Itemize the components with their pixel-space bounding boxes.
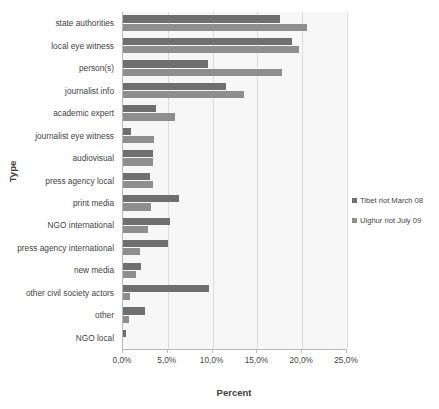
x-tick-mark [167,349,168,353]
category-label: NGO international [0,220,114,230]
bar-row [123,327,346,349]
bar-1 [123,158,153,165]
x-tick-label: 15,0% [234,355,278,365]
bar-row [123,237,346,259]
bar-row [123,192,346,214]
bar-0 [123,307,145,314]
x-tick-label: 0,0% [100,355,144,365]
bar-0 [123,15,280,22]
bar-1 [123,46,299,53]
bar-row [123,282,346,304]
category-label: state authorities [0,18,114,28]
x-tick-mark [256,349,257,353]
bar-1 [123,293,130,300]
x-tick-label: 20,0% [279,355,323,365]
legend-swatch-icon [352,218,357,223]
bar-1 [123,113,175,120]
bar-1 [123,24,307,31]
bar-chart: Type state authoritieslocal eye witnessp… [0,0,439,409]
category-label: journalist info [0,86,114,96]
chart-legend: Tibet riot March 08Uighur riot July 09 [352,196,438,236]
category-label: journalist eye witness [0,131,114,141]
legend-swatch-icon [352,198,357,203]
category-label: press agency local [0,176,114,186]
plot-area [122,12,346,349]
bar-row [123,147,346,169]
bar-row [123,57,346,79]
bar-row [123,169,346,191]
bar-1 [123,69,282,76]
bar-1 [123,248,140,255]
bar-0 [123,218,170,225]
x-tick-label: 25,0% [324,355,368,365]
bar-0 [123,105,156,112]
category-label: new media [0,265,114,275]
x-tick-mark [122,349,123,353]
category-label: other civil society actors [0,288,114,298]
legend-item[interactable]: Uighur riot July 09 [352,216,438,225]
bar-0 [123,60,208,67]
x-axis-title: Percent [122,387,346,398]
bar-row [123,304,346,326]
bar-1 [123,226,148,233]
gridline [347,12,348,349]
category-label: local eye witness [0,41,114,51]
x-tick-label: 10,0% [190,355,234,365]
bar-row [123,79,346,101]
legend-item[interactable]: Tibet riot March 08 [352,196,438,205]
bar-row [123,259,346,281]
legend-label: Uighur riot July 09 [360,216,421,225]
bar-row [123,102,346,124]
x-axis-tick-labels: 0,0%5,0%10,0%15,0%20,0%25,0% [0,355,439,369]
bar-1 [123,181,153,188]
x-axis-line [122,349,346,350]
bar-row [123,12,346,34]
x-tick-label: 5,0% [145,355,189,365]
bar-row [123,124,346,146]
bar-1 [123,316,129,323]
x-tick-mark [301,349,302,353]
category-label: NGO local [0,333,114,343]
bar-0 [123,83,226,90]
legend-label: Tibet riot March 08 [360,196,423,205]
category-label: print media [0,198,114,208]
bar-0 [123,195,179,202]
bar-0 [123,128,131,135]
bar-rows [123,12,346,349]
bar-row [123,214,346,236]
category-label: press agency international [0,243,114,253]
bar-1 [123,91,244,98]
x-tick-mark [212,349,213,353]
bar-0 [123,240,168,247]
bar-1 [123,203,151,210]
bar-0 [123,173,150,180]
x-tick-mark [346,349,347,353]
bar-1 [123,271,136,278]
bar-1 [123,136,154,143]
bar-0 [123,150,153,157]
bar-0 [123,38,292,45]
bar-0 [123,330,126,337]
bar-0 [123,263,141,270]
category-label: other [0,310,114,320]
bar-0 [123,285,209,292]
bar-row [123,34,346,56]
category-label: person(s) [0,63,114,73]
category-label: academic expert [0,108,114,118]
category-label: audiovisual [0,153,114,163]
y-axis-category-labels: state authoritieslocal eye witnessperson… [0,12,118,349]
